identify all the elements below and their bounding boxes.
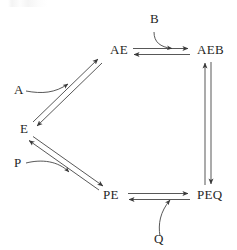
connector-p — [26, 161, 69, 172]
edge-pe-e — [29, 137, 103, 191]
node-label-ae: AE — [110, 42, 128, 57]
product-label-q: Q — [154, 231, 164, 246]
edge-pe-peq — [128, 194, 190, 200]
node-label-e: E — [20, 121, 28, 136]
node-label-peq: PEQ — [197, 187, 223, 202]
edge-ae-aeb — [133, 49, 190, 55]
product-label-p: P — [14, 155, 21, 170]
substrate-label-a: A — [14, 82, 24, 97]
connector-a — [26, 84, 68, 93]
node-label-pe: PE — [103, 187, 119, 202]
substrate-label-b: B — [150, 11, 159, 26]
connector-b — [154, 32, 172, 49]
enzyme-mechanism-diagram: AE AEB E PE PEQ A B P Q — [0, 0, 237, 250]
diagram-canvas: AE AEB E PE PEQ A B P Q — [0, 0, 237, 250]
node-label-aeb: AEB — [197, 42, 224, 57]
edge-aeb-peq — [205, 62, 211, 185]
